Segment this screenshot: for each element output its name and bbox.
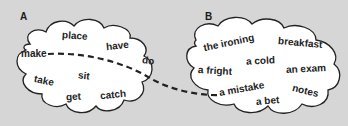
word-do: do: [141, 55, 154, 67]
word-make: make: [21, 49, 47, 59]
word-an-exam: an exam: [286, 63, 326, 75]
word-a-fright: a fright: [198, 65, 232, 77]
word-a-bet: a bet: [256, 95, 280, 107]
word-place: place: [62, 30, 88, 42]
word-a-cold: a cold: [246, 55, 275, 66]
cloud-a-label: A: [20, 11, 27, 22]
cloud-b-label: B: [205, 11, 212, 22]
word-sit: sit: [78, 70, 91, 81]
word-get: get: [66, 91, 82, 102]
